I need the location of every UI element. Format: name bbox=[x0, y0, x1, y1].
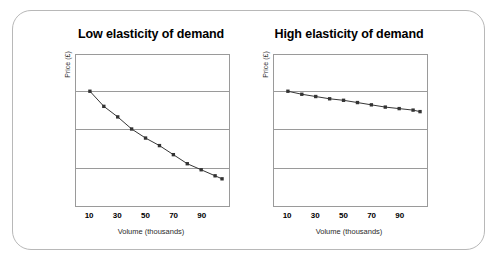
data-point-marker bbox=[418, 110, 421, 113]
y-axis-label-high: Price (£) bbox=[262, 35, 269, 95]
data-point-marker bbox=[102, 105, 105, 108]
data-point-marker bbox=[220, 177, 223, 180]
x-axis-label-high: Volume (thousands) bbox=[249, 227, 449, 236]
data-point-marker bbox=[328, 97, 331, 100]
chart-title-low-elasticity: Low elasticity of demand bbox=[51, 27, 251, 41]
data-point-marker bbox=[398, 107, 401, 110]
data-series-low-elasticity bbox=[76, 55, 229, 206]
chart-panel-low-elasticity: Low elasticity of demand Price (£) 10305… bbox=[51, 11, 251, 251]
x-tick-label: 90 bbox=[189, 211, 215, 220]
x-tick-label: 30 bbox=[302, 211, 328, 220]
data-point-marker bbox=[286, 90, 289, 93]
plot-area-high-elasticity bbox=[273, 54, 428, 207]
data-point-marker bbox=[213, 174, 216, 177]
data-point-marker bbox=[200, 168, 203, 171]
x-tick-label: 50 bbox=[132, 211, 158, 220]
data-point-marker bbox=[411, 108, 414, 111]
x-tick-label: 50 bbox=[330, 211, 356, 220]
data-point-marker bbox=[116, 115, 119, 118]
y-axis-label-low: Price (£) bbox=[64, 35, 71, 95]
data-point-marker bbox=[88, 90, 91, 93]
x-tick-label: 90 bbox=[387, 211, 413, 220]
x-tick-row-low: 1030507090 bbox=[75, 211, 230, 223]
data-point-marker bbox=[356, 101, 359, 104]
x-axis-label-low: Volume (thousands) bbox=[51, 227, 251, 236]
data-point-marker bbox=[158, 144, 161, 147]
data-point-marker bbox=[342, 99, 345, 102]
series-line bbox=[90, 91, 222, 179]
x-tick-label: 70 bbox=[359, 211, 385, 220]
data-point-marker bbox=[300, 93, 303, 96]
data-point-marker bbox=[370, 103, 373, 106]
chart-panel-high-elasticity: High elasticity of demand Price (£) 1030… bbox=[249, 11, 449, 251]
data-point-marker bbox=[314, 95, 317, 98]
plot-area-low-elasticity bbox=[75, 54, 230, 207]
x-tick-row-high: 1030507090 bbox=[273, 211, 428, 223]
x-tick-label: 70 bbox=[161, 211, 187, 220]
data-point-marker bbox=[186, 162, 189, 165]
x-tick-label: 10 bbox=[274, 211, 300, 220]
data-point-marker bbox=[130, 127, 133, 130]
x-tick-label: 10 bbox=[76, 211, 102, 220]
data-point-marker bbox=[384, 105, 387, 108]
data-point-marker bbox=[144, 136, 147, 139]
data-point-marker bbox=[172, 153, 175, 156]
figure-frame: Low elasticity of demand Price (£) 10305… bbox=[12, 10, 485, 250]
data-series-high-elasticity bbox=[274, 55, 427, 206]
chart-title-high-elasticity: High elasticity of demand bbox=[249, 27, 449, 41]
x-tick-label: 30 bbox=[104, 211, 130, 220]
